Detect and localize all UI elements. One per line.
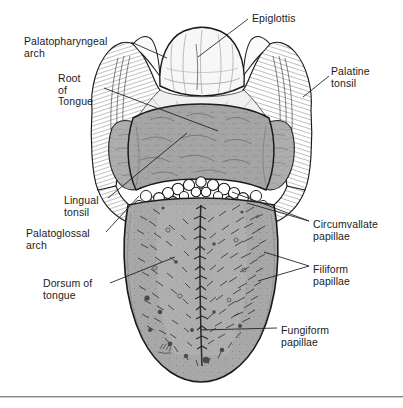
- tongue-body: [124, 198, 278, 382]
- tongue-illustration: [0, 0, 403, 408]
- epiglottis-body: [160, 27, 245, 96]
- label-palatopharyngeal-arch: Palatopharyngeal arch: [24, 36, 107, 59]
- label-fungiform-papillae: Fungiform papillae: [281, 325, 329, 348]
- label-palatoglossal-arch: Palatoglossal arch: [26, 228, 90, 251]
- anatomy-figure: Palatopharyngeal arch Root of Tongue Lin…: [0, 0, 403, 408]
- label-filiform-papillae: Filiform papillae: [313, 264, 350, 287]
- label-palatine-tonsil: Palatine tonsil: [331, 66, 370, 89]
- label-lingual-tonsil: Lingual tonsil: [64, 195, 99, 218]
- label-epiglottis: Epiglottis: [252, 13, 296, 25]
- label-dorsum-of-tongue: Dorsum of tongue: [43, 278, 92, 301]
- label-circumvallate-papillae: Circumvallate papillae: [313, 219, 378, 242]
- label-root-of-tongue: Root of Tongue: [58, 73, 93, 108]
- footer-rule: [0, 396, 403, 398]
